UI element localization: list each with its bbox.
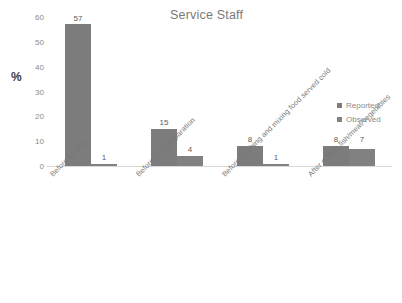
y-tick-10: 10 bbox=[26, 137, 44, 146]
y-axis-ticks: 60 50 40 30 20 10 0 bbox=[24, 17, 44, 166]
observed-swatch-icon bbox=[337, 117, 342, 122]
bar-observed-3[interactable] bbox=[349, 149, 375, 166]
bar-value-observed-1: 4 bbox=[188, 145, 192, 154]
y-tick-0: 0 bbox=[26, 162, 44, 171]
legend-item-reported[interactable]: Reported bbox=[337, 101, 381, 110]
y-tick-50: 50 bbox=[26, 37, 44, 46]
bar-value-observed-2: 1 bbox=[274, 153, 278, 162]
chart-container: Service Staff % 60 50 40 30 20 10 0 57 1… bbox=[0, 0, 402, 303]
bar-value-observed-0: 1 bbox=[102, 153, 106, 162]
y-tick-30: 30 bbox=[26, 87, 44, 96]
bar-value-observed-3: 7 bbox=[360, 135, 364, 144]
legend-item-observed[interactable]: Observed bbox=[337, 115, 381, 124]
y-tick-20: 20 bbox=[26, 112, 44, 121]
chart-legend: Reported Observed bbox=[337, 101, 381, 129]
legend-label-observed: Observed bbox=[346, 115, 381, 124]
reported-swatch-icon bbox=[337, 103, 342, 108]
y-axis-label: % bbox=[11, 70, 22, 84]
y-tick-40: 40 bbox=[26, 62, 44, 71]
legend-label-reported: Reported bbox=[346, 101, 379, 110]
bar-value-reported-1: 15 bbox=[160, 118, 169, 127]
bar-value-reported-0: 57 bbox=[74, 14, 83, 23]
y-tick-60: 60 bbox=[26, 13, 44, 22]
x-axis-baseline bbox=[47, 166, 392, 167]
